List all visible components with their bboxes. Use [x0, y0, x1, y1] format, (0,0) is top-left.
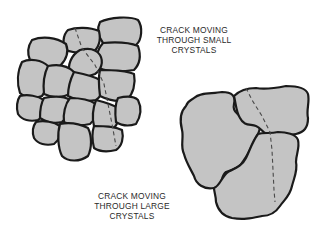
- small-grain: [33, 121, 61, 145]
- label-line: THROUGH LARGE: [88, 201, 176, 211]
- small-grain: [68, 72, 102, 101]
- label-line: CRACK MOVING: [150, 25, 238, 35]
- label-line: CRACK MOVING: [88, 191, 176, 201]
- small-grain: [58, 123, 91, 160]
- label-line: CRYSTALS: [150, 45, 238, 55]
- label-line: THROUGH SMALL: [150, 35, 238, 45]
- label-crack-small-crystals: CRACK MOVING THROUGH SMALL CRYSTALS: [150, 25, 238, 56]
- label-line: CRYSTALS: [88, 211, 176, 221]
- large-crystal-cluster: [181, 86, 309, 219]
- small-grain: [115, 97, 140, 126]
- small-crystal-cluster: [17, 18, 141, 161]
- small-grain: [93, 126, 123, 151]
- label-crack-large-crystals: CRACK MOVING THROUGH LARGE CRYSTALS: [88, 191, 176, 222]
- small-grain: [64, 98, 97, 125]
- small-grain: [97, 42, 140, 71]
